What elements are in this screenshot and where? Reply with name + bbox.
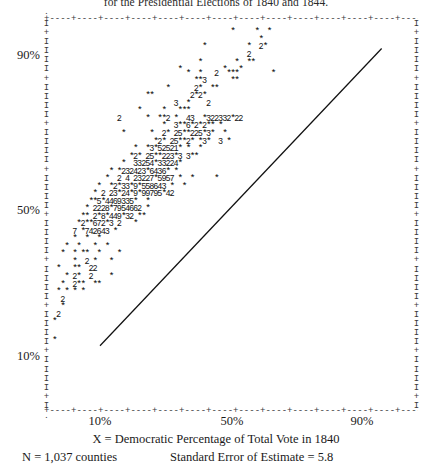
standard-error-text: Standard Error of Estimate = 5.8 bbox=[170, 450, 333, 465]
x-axis-label: X = Democratic Percentage of Total Vote … bbox=[0, 432, 432, 447]
sample-size-text: N = 1,037 counties bbox=[22, 450, 117, 465]
figure-footer: N = 1,037 counties Standard Error of Est… bbox=[0, 450, 432, 464]
